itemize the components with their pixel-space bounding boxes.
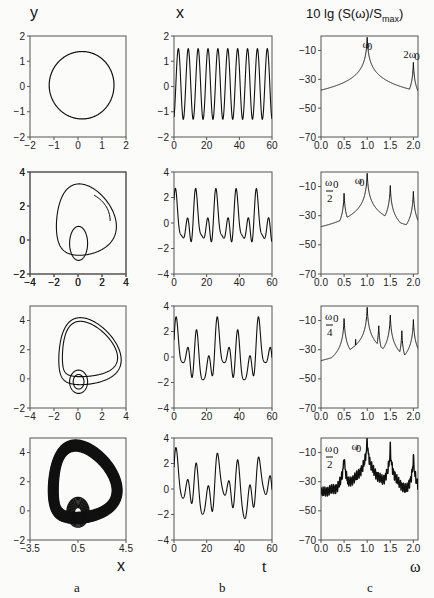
phase-x-label: x (117, 557, 125, 575)
time-y-label: x (176, 4, 184, 22)
column-label-b: b (219, 580, 226, 596)
phase-y-label: y (30, 4, 38, 22)
spectrum-y-label: 10 lg (S(ω)/Smax) (306, 6, 403, 24)
time-x-label: t (262, 558, 266, 576)
spectrum-x-label: ω (410, 558, 421, 576)
column-label-c: c (367, 580, 373, 596)
column-label-a: a (74, 580, 80, 596)
